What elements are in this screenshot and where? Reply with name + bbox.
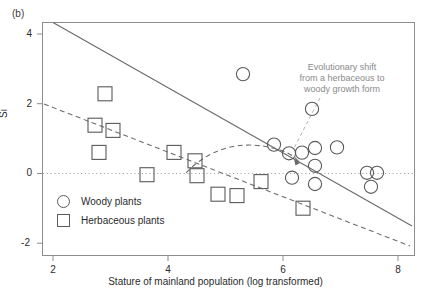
x-axis-ticks xyxy=(53,256,398,261)
y-tick-label: -2 xyxy=(6,237,30,248)
annotation-line-2: from a herbaceous to xyxy=(276,73,408,84)
legend-item-woody-plants: Woody plants xyxy=(56,192,164,211)
legend-label: Herbaceous plants xyxy=(81,215,164,226)
x-tick-label: 4 xyxy=(153,264,183,275)
data-point-square xyxy=(98,87,112,101)
x-tick-label: 8 xyxy=(383,264,413,275)
y-tick-label: 2 xyxy=(8,98,32,109)
data-point-square xyxy=(254,175,268,189)
evolutionary-shift-annotation: Evolutionary shift from a herbaceous to … xyxy=(276,62,408,95)
x-axis-label: Stature of mainland population (log tran… xyxy=(0,276,431,287)
annotation-line-3: woody growth form xyxy=(276,84,408,95)
y-axis-label: Si xyxy=(0,109,9,118)
data-point-circle xyxy=(330,141,343,154)
data-point-square xyxy=(106,123,120,137)
data-point-circle xyxy=(308,141,321,154)
data-point-square xyxy=(167,145,181,159)
data-point-circle xyxy=(364,180,377,193)
y-tick-label: 0 xyxy=(8,167,32,178)
y-tick-label: 4 xyxy=(8,28,32,39)
data-point-circle xyxy=(295,146,308,159)
x-tick-label: 2 xyxy=(38,264,68,275)
data-point-square xyxy=(230,189,244,203)
data-point-circle xyxy=(370,166,383,179)
data-point-circle xyxy=(285,171,298,184)
y-axis-ticks xyxy=(37,34,42,243)
data-point-square xyxy=(296,201,310,215)
legend-label: Woody plants xyxy=(81,196,141,207)
annotation-line-1: Evolutionary shift xyxy=(276,62,408,73)
data-point-circle xyxy=(305,102,318,115)
square-marker-icon xyxy=(56,214,74,228)
data-point-square xyxy=(92,145,106,159)
data-point-circle xyxy=(236,68,249,81)
data-point-square xyxy=(190,169,204,183)
figure-panel-b: (b) xyxy=(0,0,431,304)
chart-legend: Woody plants Herbaceous plants xyxy=(56,192,164,230)
circle-marker-icon xyxy=(56,195,74,209)
chart-canvas xyxy=(0,0,431,304)
data-point-square xyxy=(140,168,154,182)
legend-item-herbaceous-plants: Herbaceous plants xyxy=(56,211,164,230)
data-point-square xyxy=(211,187,225,201)
data-point-circle xyxy=(308,177,321,190)
x-tick-label: 6 xyxy=(268,264,298,275)
